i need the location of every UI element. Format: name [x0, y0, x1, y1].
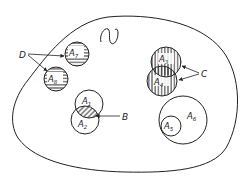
set-a6: A6 — [159, 96, 207, 144]
venn-diagram: A7 A8 D A4 A3 C — [0, 0, 252, 182]
svg-text:A6: A6 — [186, 111, 197, 122]
set-a7: A7 — [65, 42, 89, 66]
svg-text:D: D — [19, 50, 26, 60]
svg-text:B: B — [122, 112, 128, 122]
callout-b: B — [96, 112, 128, 122]
universe-boundary — [13, 16, 238, 172]
svg-text:A2: A2 — [77, 119, 88, 130]
set-a5: A5 — [161, 116, 181, 136]
svg-text:C: C — [201, 69, 208, 79]
svg-text:A5: A5 — [163, 121, 174, 132]
set-a8: A8 — [44, 67, 68, 91]
squiggle-decoration — [101, 29, 118, 44]
diagram-svg: A7 A8 D A4 A3 C — [0, 0, 252, 182]
svg-text:A1: A1 — [81, 96, 91, 107]
set-a3: A3 — [151, 47, 181, 77]
callout-c: C — [179, 66, 208, 80]
